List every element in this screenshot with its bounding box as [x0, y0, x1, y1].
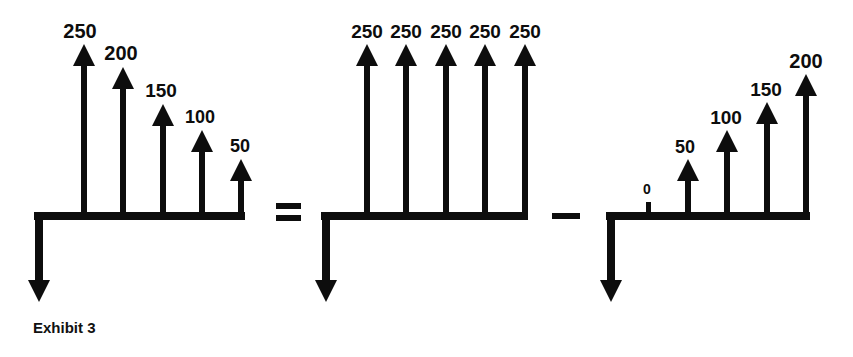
cashflow-label-5: 250 [509, 21, 541, 42]
cashflow-label-3: 150 [145, 80, 177, 101]
cashflow-label-1: 0 [643, 181, 651, 197]
cashflow-label-4: 150 [750, 79, 782, 100]
operator-minus [552, 213, 580, 219]
cashflow-label-4: 250 [469, 21, 501, 42]
equals-bar-bottom [276, 215, 301, 221]
axis-baseline-panel-2 [321, 212, 528, 220]
cashflow-label-5: 50 [230, 136, 250, 156]
cashflow-label-2: 50 [675, 137, 695, 157]
cashflow-label-3: 100 [710, 107, 742, 128]
cashflow-label-4: 100 [185, 107, 215, 127]
axis-baseline-panel-1 [34, 212, 245, 220]
axis-baseline-panel-3 [606, 212, 810, 220]
cashflow-label-1: 250 [351, 21, 383, 42]
cashflow-label-1: 250 [63, 20, 96, 42]
equals-bar-top [276, 203, 301, 209]
cashflow-label-5: 200 [789, 50, 822, 72]
zero-tick-mark [646, 202, 651, 214]
minus-bar [552, 213, 580, 219]
exhibit-3-cash-flow-figure: 250 200 150 100 50 250 250 250 250 25 [0, 0, 853, 357]
cashflow-label-2: 250 [390, 21, 422, 42]
figure-caption: Exhibit 3 [33, 319, 96, 336]
cashflow-label-3: 250 [430, 21, 462, 42]
cashflow-label-2: 200 [104, 42, 137, 64]
cashflow-label-group-panel-2: 250 250 250 250 250 [351, 21, 541, 42]
